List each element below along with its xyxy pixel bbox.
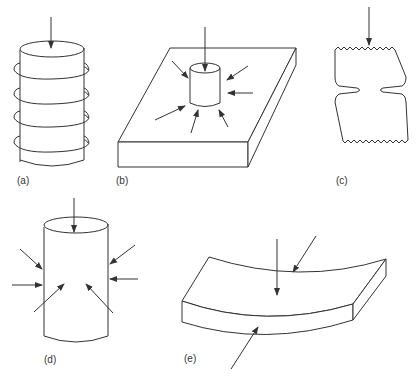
panel-label-b: (b) bbox=[116, 175, 128, 186]
arrow-icon bbox=[110, 245, 135, 264]
panel-label-c: (c) bbox=[336, 175, 348, 186]
panel-a: (a) bbox=[14, 17, 89, 186]
panel-e: (e) bbox=[182, 236, 386, 369]
panel-label-d: (d) bbox=[44, 354, 56, 365]
arrow-icon bbox=[20, 249, 42, 269]
notched-specimen bbox=[335, 47, 408, 143]
panel-d: (d) bbox=[12, 198, 138, 365]
panel-c: (c) bbox=[335, 7, 408, 186]
cylinder-a bbox=[14, 41, 89, 166]
plate-b bbox=[118, 48, 296, 167]
panel-label-a: (a) bbox=[17, 175, 29, 186]
arrow-icon bbox=[293, 236, 316, 272]
panel-label-e: (e) bbox=[184, 353, 196, 364]
panel-b: (b) bbox=[116, 27, 296, 186]
figure-canvas: (a) (b) (c) bbox=[0, 0, 416, 379]
cylinder-d bbox=[44, 217, 108, 342]
curved-slab-e bbox=[182, 257, 386, 335]
